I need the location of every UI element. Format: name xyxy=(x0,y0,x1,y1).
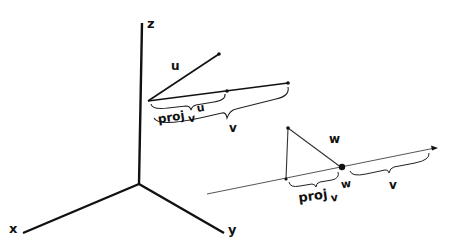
origin-point xyxy=(339,164,345,170)
label-v-left: v xyxy=(229,121,237,135)
proj-u-tip xyxy=(225,89,229,93)
left-figure: u proj v u v xyxy=(148,52,290,135)
arrowhead-v xyxy=(431,146,438,151)
label-proj-w: proj xyxy=(297,186,328,205)
brace-v-right xyxy=(350,153,429,175)
x-axis-label: x xyxy=(9,221,18,236)
z-axis-label: z xyxy=(147,16,155,31)
vector-w-tip xyxy=(286,126,290,130)
projection-diagram: z x y u proj v u v w xyxy=(0,0,450,252)
x-axis xyxy=(23,184,139,233)
coordinate-axes: z x y xyxy=(9,16,237,237)
label-proj-w-argument: w xyxy=(340,177,352,191)
brace-proj-w xyxy=(289,172,338,187)
z-axis xyxy=(139,23,142,184)
label-proj-u-argument: u xyxy=(196,101,206,115)
right-figure: w proj v w v xyxy=(207,126,438,209)
y-axis-label: y xyxy=(228,222,237,237)
label-v-right: v xyxy=(389,178,397,192)
label-proj-w-subscript: v xyxy=(330,191,340,205)
label-w: w xyxy=(329,132,340,146)
label-proj-u: proj xyxy=(157,108,186,126)
vector-u-tip xyxy=(217,52,221,56)
label-u: u xyxy=(171,59,180,73)
perpendicular-drop xyxy=(286,128,288,179)
vector-v xyxy=(148,83,288,101)
projection-foot xyxy=(284,177,287,180)
y-axis xyxy=(139,184,224,233)
vector-v-tip xyxy=(286,81,290,85)
